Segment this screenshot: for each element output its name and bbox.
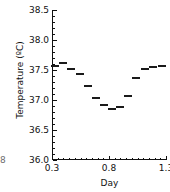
y-tick-minor [53, 94, 55, 95]
y-tick-minor [53, 22, 55, 23]
data-point-marker [92, 97, 100, 99]
stray-margin-glyph: 8 [0, 156, 6, 165]
x-tick-label: 0.3 [37, 164, 67, 173]
y-tick-minor [53, 28, 55, 29]
y-tick-label: 38.0 [19, 36, 49, 45]
y-tick-major [53, 70, 57, 71]
y-tick-label: 38.5 [19, 6, 49, 15]
data-point-marker [100, 104, 108, 106]
x-tick-minor [143, 158, 144, 160]
y-tick-label: 37.5 [19, 66, 49, 75]
y-tick-minor [53, 154, 55, 155]
y-tick-minor [53, 88, 55, 89]
y-tick-minor [53, 136, 55, 137]
x-tick-minor [81, 158, 82, 160]
y-tick-minor [53, 46, 55, 47]
x-tick-minor [58, 158, 59, 160]
x-tick-major [52, 156, 53, 160]
y-tick-minor [53, 76, 55, 77]
y-tick-minor [53, 118, 55, 119]
y-tick-minor [53, 112, 55, 113]
x-tick-minor [103, 158, 104, 160]
x-axis-label: Day [52, 178, 167, 188]
data-point-marker [149, 66, 157, 68]
x-tick-major [109, 156, 110, 160]
data-point-marker [132, 77, 140, 79]
x-tick-minor [92, 158, 93, 160]
temperature-day-chart: 8 Temperature (ºC) 36.036.537.037.538.03… [0, 0, 170, 192]
data-point-marker [84, 85, 92, 87]
y-tick-major [53, 130, 57, 131]
x-tick-minor [115, 158, 116, 160]
data-point-marker [124, 95, 132, 97]
y-tick-label: 37.0 [19, 96, 49, 105]
y-tick-major [53, 160, 57, 161]
y-tick-minor [53, 34, 55, 35]
x-tick-label: 0.8 [94, 164, 124, 173]
x-tick-minor [69, 158, 70, 160]
y-tick-minor [53, 16, 55, 17]
y-axis-tick-labels: 36.036.537.037.538.038.5 [18, 10, 49, 160]
x-tick-minor [132, 158, 133, 160]
x-tick-minor [98, 158, 99, 160]
x-axis-tick-labels: 0.30.81.3 [52, 164, 170, 176]
y-axis-spine [52, 10, 53, 160]
y-tick-minor [53, 124, 55, 125]
x-tick-minor [126, 158, 127, 160]
x-tick-label: 1.3 [151, 164, 170, 173]
x-tick-major [166, 156, 167, 160]
y-tick-minor [53, 106, 55, 107]
y-tick-minor [53, 148, 55, 149]
y-tick-major [53, 10, 57, 11]
data-point-marker [158, 65, 166, 67]
x-tick-minor [120, 158, 121, 160]
y-tick-minor [53, 58, 55, 59]
data-point-marker [59, 62, 67, 64]
data-point-marker [116, 106, 124, 108]
data-point-marker [108, 108, 116, 110]
data-point-marker [67, 68, 75, 70]
x-tick-minor [86, 158, 87, 160]
x-tick-minor [63, 158, 64, 160]
y-tick-minor [53, 64, 55, 65]
y-tick-label: 36.5 [19, 126, 49, 135]
plot-area [52, 10, 166, 160]
data-point-marker [76, 73, 84, 75]
x-tick-minor [138, 158, 139, 160]
data-point-marker [51, 65, 59, 67]
x-tick-minor [149, 158, 150, 160]
y-tick-major [53, 100, 57, 101]
y-tick-minor [53, 82, 55, 83]
x-tick-minor [155, 158, 156, 160]
y-tick-minor [53, 52, 55, 53]
x-tick-minor [75, 158, 76, 160]
y-tick-major [53, 40, 57, 41]
y-tick-minor [53, 142, 55, 143]
data-point-marker [141, 68, 149, 70]
x-tick-minor [160, 158, 161, 160]
